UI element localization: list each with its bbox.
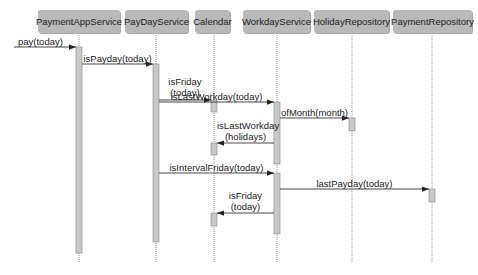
participant-payment-app-service: PaymentAppService bbox=[38, 10, 120, 33]
message-label: isLastWorkday(holidays) bbox=[217, 120, 274, 142]
message-label: isIntervalFriday(today) bbox=[159, 162, 274, 173]
participant-holiday-repository: HolidayRepository bbox=[314, 10, 389, 33]
message-label: ofMonth(month) bbox=[280, 107, 349, 118]
participant-payment-repository: PaymentRepository bbox=[393, 10, 472, 33]
message-label: lastPayday(today) bbox=[280, 178, 429, 189]
message-label: isPayday(today) bbox=[82, 53, 153, 64]
activation-bar bbox=[429, 189, 435, 202]
activation-bar bbox=[76, 47, 82, 253]
participant-calendar: Calendar bbox=[195, 10, 230, 33]
activation-bar bbox=[349, 118, 355, 131]
activation-bar bbox=[211, 213, 217, 226]
participant-payday-service: PayDayService bbox=[125, 10, 188, 33]
participant-workday-service: WorkdayService bbox=[243, 10, 310, 33]
activation-bar bbox=[211, 143, 217, 155]
message-label: isLastWorkday(today) bbox=[159, 91, 274, 102]
message-label: isFriday(today) bbox=[217, 190, 274, 212]
message-label: pay(today) bbox=[18, 36, 63, 47]
